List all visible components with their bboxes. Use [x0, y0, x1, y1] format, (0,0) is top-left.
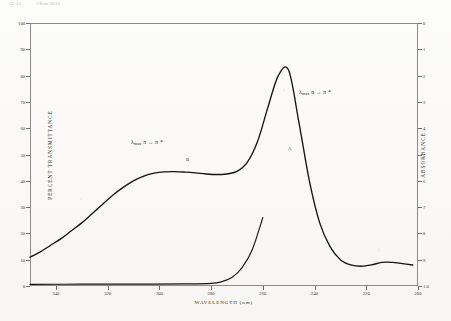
y-axis-left-tick-label: 90	[20, 47, 25, 52]
y-axis-left-tick-label: 30	[20, 205, 25, 210]
y-axis-left-tick-label: 20	[20, 231, 25, 236]
x-axis-tick	[366, 286, 367, 290]
y-axis-right-tick	[418, 155, 422, 156]
y-axis-right-tick	[418, 128, 422, 129]
annotation-pi-pi-star: λmax π→π *	[131, 139, 163, 146]
x-axis-tick	[211, 286, 212, 290]
y-axis-left-tick-label: 60	[20, 126, 25, 131]
x-axis-tick	[159, 286, 160, 290]
lambda-subscript: max	[134, 141, 141, 146]
y-axis-right-tick	[418, 207, 422, 208]
transition-target-orbital: π *	[155, 139, 163, 145]
sample-spectrum-curve	[30, 67, 413, 266]
x-axis-tick-label: 240	[311, 291, 318, 296]
uv-vis-spectrum-chart: PERCENT TRANSMITTANCE ABSORBANCE WAVELEN…	[30, 23, 418, 286]
x-axis-tick-label: 280	[208, 291, 215, 296]
y-axis-right-tick-label: 5	[423, 152, 425, 157]
x-axis-tick-label: 340	[52, 291, 59, 296]
y-axis-right-tick-label: 9	[423, 257, 425, 262]
y-axis-right-tick-label: 6	[423, 178, 425, 183]
y-axis-right-tick	[418, 233, 422, 234]
x-axis-tick-label: 300	[156, 291, 163, 296]
annotation-n-pi-star: λmax n→π *	[299, 89, 331, 96]
page-header-stamp: 12-13 Chem 3610	[9, 1, 60, 6]
x-axis-tick-label: 320	[104, 291, 111, 296]
x-axis-tick	[56, 286, 57, 290]
y-axis-right-tick-label: 0	[423, 21, 425, 26]
y-axis-right-tick	[418, 181, 422, 182]
y-axis-left-tick-label: 50	[20, 152, 25, 157]
y-axis-left-tick-label: 40	[20, 178, 25, 183]
x-axis-tick-label: 200	[415, 291, 422, 296]
y-axis-right-tick-label: 7	[423, 205, 425, 210]
y-axis-right-tick	[418, 49, 422, 50]
y-axis-left-tick-label: 100	[18, 21, 25, 26]
lambda-subscript: max	[302, 91, 309, 96]
transition-arrow-icon: →	[314, 89, 323, 95]
x-axis-tick	[315, 286, 316, 290]
y-axis-right-tick-label: 3	[423, 99, 425, 104]
y-axis-right-tick-label: 4	[423, 126, 425, 131]
x-axis-tick-label: 260	[259, 291, 266, 296]
y-axis-left-tick-label: 80	[20, 73, 25, 78]
y-axis-left-tick-label: 70	[20, 99, 25, 104]
spectrum-curves	[30, 23, 418, 286]
x-axis-tick-label: 220	[363, 291, 370, 296]
peak-marker-b: B	[186, 157, 189, 162]
y-axis-right-tick-label: 8	[423, 231, 425, 236]
y-axis-right-tick-label: 2	[423, 73, 425, 78]
header-right-stamp: Chem 3610	[36, 1, 60, 6]
x-axis-tick	[418, 286, 419, 290]
y-axis-right-tick-label: 1	[423, 47, 425, 52]
baseline-reference-curve	[30, 218, 263, 285]
y-axis-left-tick-label: 0	[23, 284, 25, 289]
peak-marker-a: A	[288, 146, 291, 151]
y-axis-right-tick	[418, 23, 422, 24]
x-axis-tick	[108, 286, 109, 290]
y-axis-right-tick	[418, 102, 422, 103]
transition-target-orbital: π *	[323, 89, 331, 95]
y-axis-right-tick-label: 1.0	[423, 284, 429, 289]
x-axis-title: WAVELENGTH (nm)	[195, 300, 253, 305]
y-axis-left-tick-label: 10	[20, 257, 25, 262]
transition-arrow-icon: →	[146, 139, 155, 145]
y-axis-right-tick	[418, 76, 422, 77]
x-axis-tick	[263, 286, 264, 290]
header-left-stamp: 12-13	[9, 1, 21, 6]
y-axis-right-tick	[418, 260, 422, 261]
y-axis-left-tick	[26, 286, 30, 287]
